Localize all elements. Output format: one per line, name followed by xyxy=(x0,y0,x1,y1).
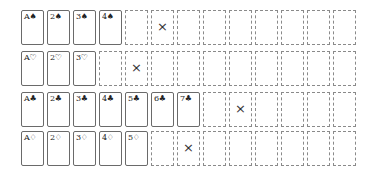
card-label: A♡ xyxy=(24,53,36,62)
card-label: 6♣ xyxy=(154,94,166,103)
card[interactable]: A♡ xyxy=(21,51,44,86)
row-diamonds: A♢ 2♢ 3♢ 4♢ 5♢ × xyxy=(21,131,356,166)
row-clubs: A♣ 2♣ 3♣ 4♣ 5♣ 6♣ 7♣ × xyxy=(21,92,356,127)
empty-slot[interactable] xyxy=(281,131,304,166)
card[interactable]: 4♣ xyxy=(99,92,122,127)
card[interactable]: 3♡ xyxy=(73,51,96,86)
empty-slot[interactable] xyxy=(307,131,330,166)
card-label: 5♣ xyxy=(128,94,140,103)
target-slot[interactable]: × xyxy=(125,51,148,86)
empty-slot[interactable] xyxy=(177,10,200,45)
row-spades: A♠ 2♠ 3♠ 4♠ × xyxy=(21,10,356,45)
card-label: 2♠ xyxy=(50,12,62,21)
empty-slot[interactable] xyxy=(203,131,226,166)
card-label: 2♢ xyxy=(50,133,62,142)
card-label: 3♣ xyxy=(76,94,88,103)
empty-slot[interactable] xyxy=(177,51,200,86)
close-x-icon: × xyxy=(126,61,147,75)
empty-slot[interactable] xyxy=(203,51,226,86)
card-label: 4♢ xyxy=(102,133,114,142)
empty-slot[interactable] xyxy=(333,51,356,86)
empty-slot[interactable] xyxy=(333,92,356,127)
card[interactable]: 6♣ xyxy=(151,92,174,127)
card[interactable]: 2♣ xyxy=(47,92,70,127)
empty-slot[interactable] xyxy=(151,51,174,86)
card-label: 2♡ xyxy=(50,53,62,62)
empty-slot[interactable] xyxy=(255,51,278,86)
empty-slot[interactable] xyxy=(281,51,304,86)
close-x-icon: × xyxy=(230,102,251,116)
card[interactable]: 2♢ xyxy=(47,131,70,166)
empty-slot[interactable] xyxy=(229,10,252,45)
empty-slot[interactable] xyxy=(281,10,304,45)
card[interactable]: 3♣ xyxy=(73,92,96,127)
card[interactable]: 3♠ xyxy=(73,10,96,45)
row-hearts: A♡ 2♡ 3♡ × xyxy=(21,51,356,86)
empty-slot[interactable] xyxy=(255,92,278,127)
target-slot[interactable]: × xyxy=(151,10,174,45)
empty-slot[interactable] xyxy=(203,10,226,45)
card[interactable]: A♢ xyxy=(21,131,44,166)
card[interactable]: 4♢ xyxy=(99,131,122,166)
empty-slot[interactable] xyxy=(203,92,226,127)
empty-slot[interactable] xyxy=(307,51,330,86)
card-label: 5♢ xyxy=(128,133,140,142)
empty-slot[interactable] xyxy=(255,10,278,45)
empty-slot[interactable] xyxy=(307,92,330,127)
card[interactable]: 5♢ xyxy=(125,131,148,166)
card[interactable]: 5♣ xyxy=(125,92,148,127)
card-label: 3♡ xyxy=(76,53,88,62)
empty-slot[interactable] xyxy=(333,10,356,45)
card-label: 3♢ xyxy=(76,133,88,142)
empty-slot[interactable] xyxy=(333,131,356,166)
target-slot[interactable]: × xyxy=(229,92,252,127)
card-label: 4♣ xyxy=(102,94,114,103)
empty-slot[interactable] xyxy=(229,51,252,86)
card-label: 7♣ xyxy=(180,94,192,103)
card-label: A♠ xyxy=(24,12,36,21)
card[interactable]: 7♣ xyxy=(177,92,200,127)
empty-slot[interactable] xyxy=(307,10,330,45)
target-slot[interactable]: × xyxy=(177,131,200,166)
close-x-icon: × xyxy=(152,20,173,34)
card[interactable]: 4♠ xyxy=(99,10,122,45)
card-label: A♣ xyxy=(24,94,36,103)
close-x-icon: × xyxy=(178,141,199,155)
empty-slot[interactable] xyxy=(229,131,252,166)
card[interactable]: A♣ xyxy=(21,92,44,127)
card[interactable]: 2♠ xyxy=(47,10,70,45)
empty-slot[interactable] xyxy=(125,10,148,45)
card[interactable]: 3♢ xyxy=(73,131,96,166)
card[interactable]: 2♡ xyxy=(47,51,70,86)
card-label: 3♠ xyxy=(76,12,88,21)
empty-slot[interactable] xyxy=(281,92,304,127)
card[interactable]: A♠ xyxy=(21,10,44,45)
empty-slot[interactable] xyxy=(151,131,174,166)
card-label: 4♠ xyxy=(102,12,114,21)
card-label: 2♣ xyxy=(50,94,62,103)
empty-slot[interactable] xyxy=(99,51,122,86)
empty-slot[interactable] xyxy=(255,131,278,166)
card-label: A♢ xyxy=(24,133,36,142)
